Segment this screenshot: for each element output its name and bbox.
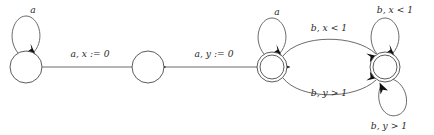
automaton-diagram-canvas: a a, x := 0 a, y := 0 a b, x < 1 b, y > … bbox=[0, 0, 434, 135]
label-self-loop-q3-bottom: b, y > 1 bbox=[371, 120, 407, 131]
loop-path-q2 bbox=[258, 18, 286, 54]
state-machine-svg: a a, x := 0 a, y := 0 a b, x < 1 b, y > … bbox=[0, 0, 434, 135]
state-q1-circle[interactable] bbox=[132, 51, 164, 83]
transition-q2-q3-upper bbox=[283, 39, 378, 62]
self-loop-q3-top bbox=[371, 18, 399, 56]
self-loop-q0 bbox=[12, 16, 40, 55]
loop-path-q3-bottom bbox=[379, 79, 407, 116]
loop-path-q0 bbox=[12, 16, 40, 53]
state-q2-inner-circle bbox=[260, 55, 284, 79]
label-curve-upper-q2-q3: b, x < 1 bbox=[311, 22, 347, 33]
label-edge-q1-q2: a, y := 0 bbox=[195, 48, 234, 59]
loop-path-q3-top bbox=[371, 18, 399, 54]
label-self-loop-q0: a bbox=[30, 4, 35, 15]
label-self-loop-q3-top: b, x < 1 bbox=[377, 4, 413, 15]
label-self-loop-q2: a bbox=[274, 6, 279, 17]
label-curve-lower-q2-q3: b, y > 1 bbox=[311, 87, 347, 98]
state-q2[interactable] bbox=[257, 52, 287, 82]
state-q0[interactable] bbox=[10, 51, 42, 83]
self-loop-q3-bottom bbox=[379, 79, 407, 116]
arrowhead-loop-q3-bottom bbox=[380, 83, 389, 95]
self-loop-q2 bbox=[258, 18, 286, 56]
edge-curve-upper bbox=[283, 39, 376, 56]
label-edge-q0-q1: a, x := 0 bbox=[71, 48, 110, 59]
state-q0-circle[interactable] bbox=[10, 51, 42, 83]
state-q3-inner-circle bbox=[373, 55, 397, 79]
state-q3[interactable] bbox=[370, 52, 400, 82]
state-q1[interactable] bbox=[132, 51, 164, 83]
